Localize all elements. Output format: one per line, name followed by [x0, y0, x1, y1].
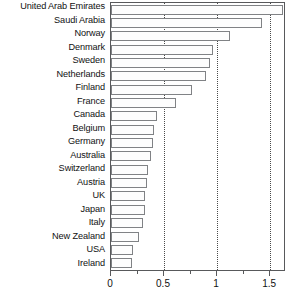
- bar: [111, 151, 151, 161]
- x-tick-label: 1.5: [262, 277, 276, 291]
- x-tick-minor: [190, 271, 191, 274]
- x-tick-minor: [243, 271, 244, 274]
- bar-row: [111, 150, 284, 163]
- bars-layer: [111, 3, 284, 270]
- x-tick-major: [110, 271, 111, 276]
- bar-row: [111, 83, 284, 96]
- bar: [111, 218, 143, 228]
- bar: [111, 85, 192, 95]
- bar: [111, 138, 153, 148]
- x-tick-minor: [137, 271, 138, 274]
- bar: [111, 111, 157, 121]
- bar-row: [111, 3, 284, 16]
- bar-row: [111, 96, 284, 109]
- category-label: Saudi Arabia: [0, 14, 108, 28]
- x-tick-major: [269, 271, 270, 276]
- bar: [111, 18, 262, 28]
- bar-row: [111, 163, 284, 176]
- bar: [111, 205, 145, 215]
- bar: [111, 191, 145, 201]
- x-axis-tick-labels: 00.511.5: [110, 277, 285, 293]
- x-tick-major: [216, 271, 217, 276]
- category-label: Austria: [0, 176, 108, 190]
- bar-row: [111, 257, 284, 270]
- category-label: Ireland: [0, 257, 108, 271]
- bar: [111, 45, 213, 55]
- bar-chart: United Arab EmiratesSaudi ArabiaNorwayDe…: [0, 0, 292, 298]
- category-label: Norway: [0, 27, 108, 41]
- bar-row: [111, 176, 284, 189]
- x-tick-label: 1: [213, 277, 219, 291]
- bar: [111, 232, 139, 242]
- bar-row: [111, 136, 284, 149]
- bar: [111, 165, 148, 175]
- category-label: USA: [0, 243, 108, 257]
- x-tick-label: 0: [107, 277, 113, 291]
- bar: [111, 71, 206, 81]
- bar-row: [111, 230, 284, 243]
- bar: [111, 58, 210, 68]
- bar: [111, 178, 147, 188]
- bar-row: [111, 243, 284, 256]
- bar-row: [111, 16, 284, 29]
- category-label: Australia: [0, 149, 108, 163]
- bar-row: [111, 70, 284, 83]
- bar: [111, 245, 133, 255]
- category-label: United Arab Emirates: [0, 0, 108, 14]
- plot-area: [110, 2, 285, 270]
- bar-row: [111, 217, 284, 230]
- category-label: Sweden: [0, 54, 108, 68]
- category-label: Finland: [0, 81, 108, 95]
- bar-row: [111, 56, 284, 69]
- category-label: Japan: [0, 203, 108, 217]
- bar-row: [111, 110, 284, 123]
- category-label: New Zealand: [0, 230, 108, 244]
- category-axis-labels: United Arab EmiratesSaudi ArabiaNorwayDe…: [0, 0, 108, 270]
- bar-row: [111, 203, 284, 216]
- category-label: France: [0, 95, 108, 109]
- bar: [111, 125, 154, 135]
- bar-row: [111, 123, 284, 136]
- category-label: Belgium: [0, 122, 108, 136]
- category-label: Denmark: [0, 41, 108, 55]
- bar-row: [111, 190, 284, 203]
- category-label: Netherlands: [0, 68, 108, 82]
- bar: [111, 31, 230, 41]
- bar: [111, 98, 176, 108]
- x-tick-major: [163, 271, 164, 276]
- bar-row: [111, 43, 284, 56]
- bar: [111, 5, 283, 15]
- bar: [111, 258, 132, 268]
- category-label: Italy: [0, 216, 108, 230]
- category-label: Switzerland: [0, 162, 108, 176]
- category-label: UK: [0, 189, 108, 203]
- bar-row: [111, 30, 284, 43]
- category-label: Germany: [0, 135, 108, 149]
- x-tick-label: 0.5: [156, 277, 170, 291]
- category-label: Canada: [0, 108, 108, 122]
